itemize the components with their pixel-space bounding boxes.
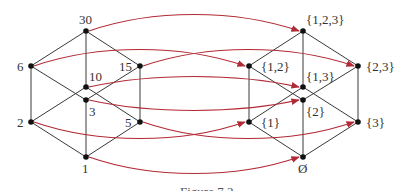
right-node-2s (300, 97, 306, 103)
mapping-arrows (34, 15, 354, 174)
left-node-5 (137, 119, 143, 125)
right-node-12 (246, 63, 252, 69)
figure-caption: Figure 7.2 (180, 184, 233, 191)
right-node-13 (300, 84, 306, 90)
left-edge (31, 31, 86, 66)
right-edge (303, 122, 358, 157)
right-node-label: {2} (306, 104, 325, 119)
left-lattice-nodes: 30615103251 (17, 12, 143, 176)
right-node-label: {2,3} (366, 59, 395, 74)
left-node-label: 1 (82, 161, 89, 176)
right-node-label: {1,2,3} (306, 12, 344, 27)
left-node-3 (83, 97, 89, 103)
left-node-label: 5 (125, 115, 132, 130)
right-node-label: {1} (261, 115, 280, 130)
left-node-label: 30 (79, 12, 92, 27)
left-node-label: 15 (119, 59, 132, 74)
left-edge (86, 122, 140, 157)
right-node-label: Ø (298, 161, 307, 176)
right-lattice-nodes: {1,2,3}{1,2}{2,3}{1,3}{2}{1}{3}Ø (246, 12, 395, 176)
left-node-15 (137, 63, 143, 69)
right-node-1s (246, 119, 252, 125)
left-edge (31, 122, 86, 157)
left-node-label: 10 (89, 69, 102, 84)
left-node-10 (83, 84, 89, 90)
left-node-1 (83, 154, 89, 160)
right-node-label: {3} (366, 115, 385, 130)
right-node-123 (300, 28, 306, 34)
left-node-label: 6 (17, 59, 24, 74)
left-edge (31, 87, 86, 122)
right-node-23 (355, 63, 361, 69)
left-node-30 (83, 28, 89, 34)
mapping-arrow (89, 157, 299, 174)
lattice-isomorphism-diagram: 30615103251 {1,2,3}{1,2}{2,3}{1,3}{2}{1}… (0, 0, 404, 191)
right-node-label: {1,2} (261, 59, 290, 74)
left-node-2 (28, 119, 34, 125)
left-node-label: 2 (17, 115, 24, 130)
mapping-arrow (89, 15, 299, 32)
left-node-6 (28, 63, 34, 69)
left-edge (31, 66, 86, 100)
right-node-empty (300, 154, 306, 160)
right-edge (303, 31, 358, 66)
right-node-label: {1,3} (306, 69, 335, 84)
left-node-label: 3 (89, 104, 96, 119)
right-node-3s (355, 119, 361, 125)
